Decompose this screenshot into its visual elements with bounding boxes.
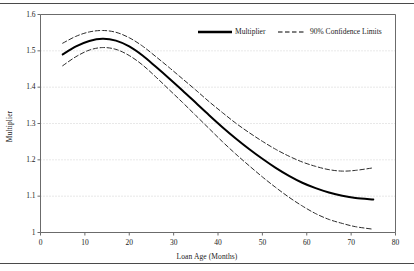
x-axis-title: Loan Age (Months) xyxy=(0,252,414,261)
y-tick-label-1.1: 1.1 xyxy=(5,191,36,200)
x-tick-label-0: 0 xyxy=(26,238,56,247)
x-tick-label-40: 40 xyxy=(203,238,233,247)
x-tick-label-10: 10 xyxy=(70,238,100,247)
data-series xyxy=(63,30,374,229)
figure-container: 11.11.21.31.41.51.6 01020304050607080 Lo… xyxy=(0,0,414,271)
x-tick-label-80: 80 xyxy=(381,238,411,247)
series-line-2 xyxy=(63,48,374,230)
y-tick-label-1.5: 1.5 xyxy=(5,46,36,55)
legend-label-1: 90% Confidence Limits xyxy=(310,27,382,36)
x-tick-label-60: 60 xyxy=(292,238,322,247)
line-chart xyxy=(0,0,414,271)
y-tick-label-1.6: 1.6 xyxy=(5,10,36,19)
series-line-1 xyxy=(63,30,374,171)
x-tick-label-20: 20 xyxy=(114,238,144,247)
y-axis-title: Multiplier xyxy=(5,91,14,163)
x-tick-label-50: 50 xyxy=(247,238,277,247)
y-tick-label-1: 1 xyxy=(5,228,36,237)
legend-label-0: Multiplier xyxy=(235,27,265,36)
x-tick-label-30: 30 xyxy=(159,238,189,247)
series-line-0 xyxy=(63,39,374,200)
gridlines xyxy=(41,15,396,197)
x-tick-label-70: 70 xyxy=(336,238,366,247)
axis-ticks xyxy=(38,15,396,236)
